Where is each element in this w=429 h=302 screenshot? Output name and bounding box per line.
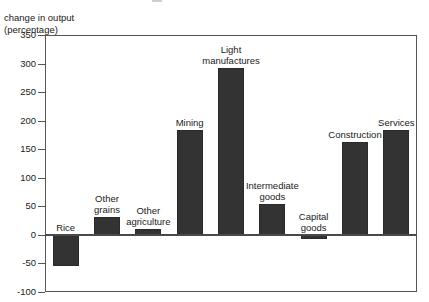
- y-axis-tick: [38, 235, 45, 236]
- y-axis-tick-label: 200: [2, 116, 36, 126]
- y-axis-tick-label: 350: [2, 30, 36, 40]
- bar: [177, 130, 203, 235]
- y-axis-tick: [38, 263, 45, 264]
- bar: [342, 142, 368, 235]
- y-axis-tick: [38, 92, 45, 93]
- y-axis-tick: [38, 149, 45, 150]
- y-axis-tick-label: 150: [2, 144, 36, 154]
- bar: [53, 235, 79, 266]
- zero-baseline: [45, 234, 417, 236]
- y-axis-tick-label: -100: [2, 287, 36, 297]
- y-axis-tick: [38, 121, 45, 122]
- bar-category-label: Light manufactures: [185, 44, 277, 66]
- bar: [218, 68, 244, 235]
- y-axis-tick: [38, 178, 45, 179]
- bar: [383, 130, 409, 235]
- y-axis-tick-label: 100: [2, 173, 36, 183]
- y-axis-tick: [38, 292, 45, 293]
- y-axis-tick-label: 50: [2, 201, 36, 211]
- y-axis-tick-label: 300: [2, 59, 36, 69]
- bar-category-label: Intermediate goods: [226, 180, 318, 202]
- y-axis-tick: [38, 206, 45, 207]
- crop-artifact: [152, 0, 162, 2]
- y-axis-tick-label: 250: [2, 87, 36, 97]
- y-axis-tick: [38, 64, 45, 65]
- y-axis-tick: [38, 35, 45, 36]
- bar-category-label: Services: [350, 117, 429, 128]
- y-axis-tick-label: -50: [2, 258, 36, 268]
- bar-chart: change in output (percentage) 3503002502…: [0, 0, 429, 302]
